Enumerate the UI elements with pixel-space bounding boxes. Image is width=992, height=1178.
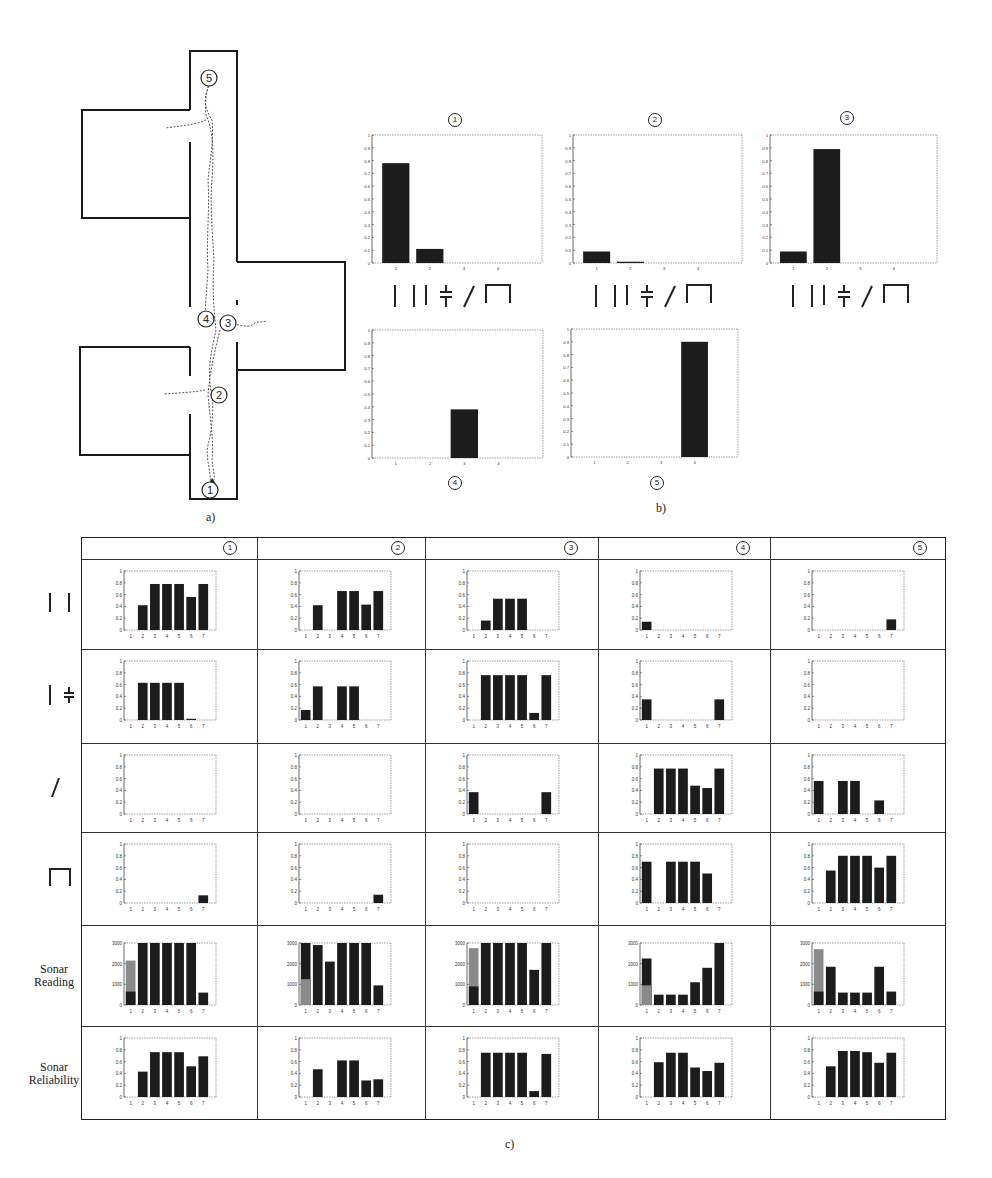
svg-text:1: 1	[635, 659, 638, 664]
svg-text:0.9: 0.9	[364, 341, 370, 346]
landmark-symbol-legend	[392, 283, 522, 309]
svg-text:6: 6	[706, 634, 709, 639]
svg-text:3: 3	[663, 266, 666, 271]
svg-text:3: 3	[329, 907, 332, 912]
svg-text:7: 7	[718, 724, 721, 729]
bar	[529, 970, 539, 1005]
svg-text:3: 3	[497, 724, 500, 729]
bar	[150, 584, 160, 630]
svg-text:0.5: 0.5	[563, 391, 569, 396]
svg-text:0.8: 0.8	[459, 581, 466, 586]
svg-text:1: 1	[129, 818, 132, 823]
svg-text:7: 7	[545, 818, 548, 823]
svg-text:0.4: 0.4	[291, 604, 298, 609]
column-header-5: 5	[913, 541, 927, 555]
svg-text:7: 7	[890, 907, 893, 912]
svg-text:0.2: 0.2	[632, 1083, 639, 1088]
svg-text:0.8: 0.8	[563, 353, 569, 358]
cell-bar-chart: 00.20.40.60.811234567	[277, 751, 397, 826]
svg-text:0.6: 0.6	[459, 866, 466, 871]
svg-text:6: 6	[706, 907, 709, 912]
svg-text:0: 0	[294, 628, 297, 633]
bar	[138, 605, 148, 630]
svg-text:1000: 1000	[455, 982, 466, 987]
svg-text:0.8: 0.8	[804, 581, 811, 586]
svg-text:5: 5	[178, 907, 181, 912]
svg-text:0: 0	[462, 628, 465, 633]
svg-text:3: 3	[842, 724, 845, 729]
svg-text:1: 1	[294, 753, 297, 758]
svg-text:5: 5	[866, 1101, 869, 1106]
svg-text:0.4: 0.4	[804, 788, 811, 793]
svg-text:1000: 1000	[112, 982, 123, 987]
cell-bar-chart: 00.20.40.60.811234567	[790, 567, 910, 642]
svg-text:1: 1	[395, 461, 398, 466]
svg-text:3000: 3000	[455, 941, 466, 946]
svg-text:2: 2	[317, 1101, 320, 1106]
svg-text:4: 4	[854, 1009, 857, 1014]
svg-text:7: 7	[202, 1009, 205, 1014]
svg-text:7: 7	[377, 1009, 380, 1014]
svg-text:4: 4	[682, 724, 685, 729]
svg-text:1: 1	[462, 569, 465, 574]
svg-text:1: 1	[294, 659, 297, 664]
svg-text:4: 4	[166, 634, 169, 639]
svg-text:0.1: 0.1	[762, 248, 768, 253]
svg-text:0.6: 0.6	[116, 866, 123, 871]
bar	[162, 943, 172, 1005]
svg-text:0.6: 0.6	[632, 866, 639, 871]
svg-text:2: 2	[142, 818, 145, 823]
bar	[617, 262, 644, 263]
svg-text:0.6: 0.6	[459, 777, 466, 782]
column-divider	[425, 538, 426, 1119]
svg-text:5: 5	[694, 1101, 697, 1106]
svg-text:0: 0	[119, 901, 122, 906]
bar	[325, 962, 335, 1005]
svg-text:4: 4	[682, 634, 685, 639]
svg-text:0.6: 0.6	[632, 777, 639, 782]
svg-text:2: 2	[830, 724, 833, 729]
svg-text:0.2: 0.2	[804, 1083, 811, 1088]
bar	[416, 249, 443, 263]
cell-bar-chart: 00.20.40.60.811234567	[445, 751, 565, 826]
svg-text:6: 6	[533, 818, 536, 823]
bar	[517, 943, 527, 1005]
svg-text:0.4: 0.4	[459, 1071, 466, 1076]
bar	[493, 675, 503, 720]
svg-text:1: 1	[129, 1101, 132, 1106]
bar	[850, 856, 860, 903]
svg-text:0: 0	[807, 718, 810, 723]
bar	[666, 1053, 676, 1097]
bar	[541, 675, 551, 720]
svg-text:0.6: 0.6	[364, 379, 370, 384]
svg-text:4: 4	[509, 1101, 512, 1106]
bar	[198, 584, 208, 630]
svg-text:3000: 3000	[628, 941, 639, 946]
svg-text:0: 0	[368, 456, 371, 461]
cell-bar-chart: 00.20.40.60.811234567	[102, 567, 222, 642]
svg-text:4: 4	[854, 634, 857, 639]
svg-text:2: 2	[142, 1009, 145, 1014]
svg-text:1: 1	[807, 659, 810, 664]
svg-text:2: 2	[485, 634, 488, 639]
bar	[850, 1051, 860, 1097]
bar	[174, 1052, 184, 1097]
bar	[150, 1052, 160, 1097]
svg-text:6: 6	[365, 1009, 368, 1014]
svg-text:0.8: 0.8	[459, 1048, 466, 1053]
svg-text:7: 7	[377, 634, 380, 639]
svg-text:0.4: 0.4	[804, 877, 811, 882]
svg-text:4: 4	[509, 634, 512, 639]
bar-chart-b5: 00.10.20.30.40.50.60.70.80.911234	[549, 325, 744, 469]
svg-text:0.8: 0.8	[291, 1048, 298, 1053]
cell-bar-chart: 00.20.40.60.811234567	[618, 567, 738, 642]
svg-text:2: 2	[485, 1101, 488, 1106]
svg-text:0.5: 0.5	[364, 392, 370, 397]
svg-text:4: 4	[166, 1009, 169, 1014]
bar	[349, 943, 359, 1005]
svg-text:7: 7	[202, 818, 205, 823]
svg-text:1: 1	[472, 1101, 475, 1106]
bar	[690, 786, 700, 814]
svg-text:5: 5	[866, 907, 869, 912]
svg-text:0.8: 0.8	[804, 671, 811, 676]
